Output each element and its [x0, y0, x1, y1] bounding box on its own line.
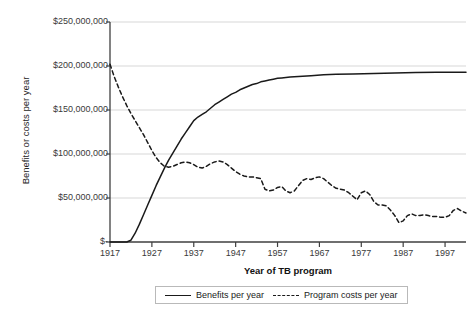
y-axis-title: Benefits or costs per year [20, 31, 31, 231]
x-axis-tick-label: 1997 [420, 248, 470, 258]
series-line-benefits [110, 72, 466, 242]
legend-item-program-costs: Program costs per year [273, 290, 398, 300]
tb-program-benefits-costs-chart: $250,000,000$200,000,000$150,000,000$100… [0, 0, 470, 313]
legend-dashed-line-icon [273, 295, 299, 296]
x-axis-title: Year of TB program [110, 265, 466, 276]
legend-item-benefits: Benefits per year [165, 290, 264, 300]
chart-legend: Benefits per year Program costs per year [155, 286, 408, 304]
series-line-program-costs [110, 64, 466, 222]
legend-solid-line-icon [165, 295, 191, 296]
legend-label-benefits: Benefits per year [196, 290, 264, 300]
legend-label-program-costs: Program costs per year [304, 290, 398, 300]
